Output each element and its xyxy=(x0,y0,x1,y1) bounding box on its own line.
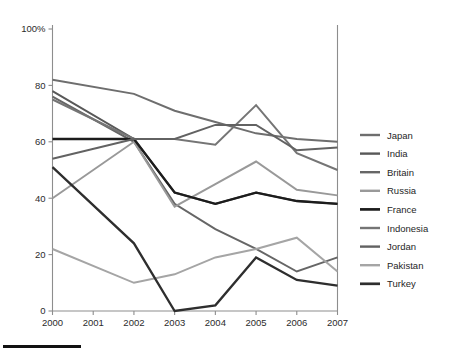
legend-label: Russia xyxy=(387,185,417,196)
legend-label: Pakistan xyxy=(387,260,423,271)
y-tick-label: 40 xyxy=(35,193,46,204)
y-tick-label: 100% xyxy=(21,23,46,34)
x-tick-label: 2004 xyxy=(205,317,226,328)
legend-label: India xyxy=(387,148,408,159)
x-tick-label: 2002 xyxy=(123,317,144,328)
legend-label: Japan xyxy=(387,130,413,141)
y-tick-label: 20 xyxy=(35,249,46,260)
x-tick-label: 2000 xyxy=(42,317,63,328)
x-tick-label: 2007 xyxy=(327,317,348,328)
y-tick-label: 60 xyxy=(35,136,46,147)
legend-label: Indonesia xyxy=(387,223,429,234)
legend-label: Turkey xyxy=(387,278,416,289)
chart-background xyxy=(0,0,456,358)
x-tick-label: 2001 xyxy=(83,317,104,328)
x-tick-label: 2005 xyxy=(246,317,267,328)
legend-label: France xyxy=(387,204,417,215)
legend-label: Britain xyxy=(387,167,414,178)
legend-label: Jordan xyxy=(387,241,416,252)
footer-rule xyxy=(3,345,81,348)
y-tick-label: 80 xyxy=(35,80,46,91)
y-tick-label: 0 xyxy=(40,305,45,316)
x-tick-label: 2006 xyxy=(286,317,307,328)
line-chart: 20002001200220032004200520062007 0204060… xyxy=(0,0,456,358)
x-tick-label: 2003 xyxy=(164,317,185,328)
